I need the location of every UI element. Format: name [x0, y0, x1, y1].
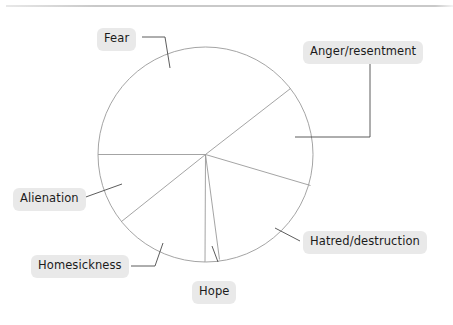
slice-divider-hope-homesickness: [205, 155, 206, 263]
leader-line-fear: [142, 37, 170, 68]
leader-line-homesickness: [131, 243, 163, 266]
pie-label-hope[interactable]: Hope: [192, 281, 236, 304]
slice-divider-anger-hatred: [206, 155, 311, 186]
leader-line-hatred: [275, 228, 300, 241]
slice-divider-hatred-hope: [206, 155, 220, 260]
pie-label-hatred-destruction-text: Hatred/destruction: [310, 234, 420, 248]
pie-label-fear-text: Fear: [104, 31, 129, 45]
figure-canvas: Fear Anger/resentment Hatred/destruction…: [0, 0, 453, 325]
pie-label-anger-resentment-text: Anger/resentment: [310, 44, 416, 58]
slice-divider-fear-anger: [206, 89, 291, 155]
pie-label-homesickness[interactable]: Homesickness: [31, 255, 129, 278]
pie-label-alienation[interactable]: Alienation: [13, 188, 86, 211]
slice-divider-homesickness-alienation: [122, 155, 206, 222]
leader-line-anger: [295, 62, 370, 137]
pie-label-homesickness-text: Homesickness: [38, 258, 122, 272]
pie-label-hope-text: Hope: [199, 284, 229, 298]
pie-label-alienation-text: Alienation: [20, 191, 79, 205]
pie-label-anger-resentment[interactable]: Anger/resentment: [303, 41, 423, 64]
leader-line-hope: [212, 246, 218, 262]
pie-label-fear[interactable]: Fear: [97, 28, 136, 51]
pie-label-hatred-destruction[interactable]: Hatred/destruction: [303, 231, 427, 254]
